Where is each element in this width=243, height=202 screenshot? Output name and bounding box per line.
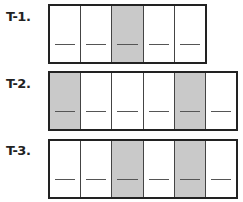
shaded-cell [50,73,81,129]
answer-blank-line [86,44,106,45]
answer-blank-line [86,111,106,112]
shaded-cell [175,73,206,129]
unshaded-cell [81,141,112,197]
fraction-strip [48,139,238,199]
unshaded-cell [144,6,175,62]
answer-blank-line [149,179,169,180]
answer-blank-line [211,111,231,112]
answer-blank-line [55,179,75,180]
unshaded-cell [112,73,143,129]
unshaded-cell [206,73,236,129]
answer-blank-line [117,179,137,180]
answer-blank-line [149,44,169,45]
unshaded-cell [50,6,81,62]
problem-label: T-2. [6,76,30,91]
unshaded-cell [144,141,175,197]
fraction-strip [48,4,207,64]
unshaded-cell [175,6,205,62]
unshaded-cell [144,73,175,129]
answer-blank-line [180,179,200,180]
answer-blank-line [55,111,75,112]
unshaded-cell [81,6,112,62]
shaded-cell [112,141,143,197]
answer-blank-line [55,44,75,45]
answer-blank-line [211,179,231,180]
answer-blank-line [86,179,106,180]
answer-blank-line [117,111,137,112]
shaded-cell [112,6,143,62]
unshaded-cell [50,141,81,197]
fraction-strip [48,71,238,131]
answer-blank-line [117,44,137,45]
unshaded-cell [206,141,236,197]
problem-label: T-3. [6,143,30,158]
answer-blank-line [180,111,200,112]
problem-label: T-1. [6,9,30,24]
answer-blank-line [180,44,200,45]
answer-blank-line [149,111,169,112]
shaded-cell [175,141,206,197]
unshaded-cell [81,73,112,129]
